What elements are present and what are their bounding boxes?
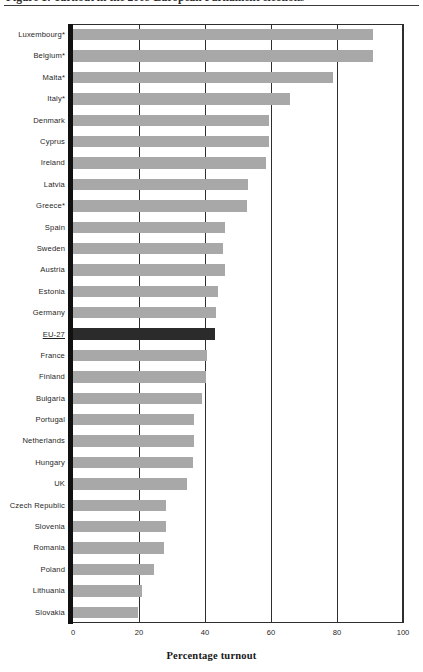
bar [73,115,269,126]
category-label: Lithuania [33,580,65,601]
bar [73,179,248,190]
bar [73,29,373,40]
category-label: Malta* [43,67,65,88]
bar-row: Germany [0,302,423,323]
bar-row: Austria [0,259,423,280]
category-label: Greece* [36,195,65,216]
bar-row: Luxembourg* [0,24,423,45]
bar [73,457,193,468]
category-label: Sweden [37,238,65,259]
bar [73,222,225,233]
category-label: Netherlands [22,430,65,451]
category-label: Latvia [44,174,65,195]
bar [73,328,215,340]
category-label: Poland [40,559,65,580]
bar [73,542,164,553]
x-tick-100: 100 [383,628,423,637]
category-label: Slovenia [35,516,65,537]
bar-row: Slovakia [0,602,423,623]
category-label: Finland [39,366,65,387]
bar-row: Romania [0,537,423,558]
bar-chart: Luxembourg*Belgium*Malta*Italy*DenmarkCy… [0,0,423,672]
bar-row: Malta* [0,67,423,88]
bar [73,500,166,511]
category-label: Romania [34,537,65,558]
category-label: EU-27 [43,324,65,345]
bar-row: France [0,345,423,366]
bar [73,585,142,596]
bar-row: Sweden [0,238,423,259]
bar [73,307,216,318]
bar-row: UK [0,473,423,494]
bar-row: Spain [0,217,423,238]
bar-row: Belgium* [0,45,423,66]
category-label: Slovakia [35,602,65,623]
x-tick-20: 20 [119,628,159,637]
bar [73,435,194,446]
bar [73,157,266,168]
bar-rows: Luxembourg*Belgium*Malta*Italy*DenmarkCy… [0,24,423,623]
bar-row: Denmark [0,110,423,131]
bar [73,136,269,147]
bar [73,286,218,297]
bar [73,393,202,404]
category-label: Cyprus [40,131,65,152]
category-label: Austria [40,259,65,280]
bar-row: Finland [0,366,423,387]
bar [73,200,247,211]
bar-row: Cyprus [0,131,423,152]
x-tick-40: 40 [185,628,225,637]
category-label: Czech Republic [10,495,65,516]
bar-row: Bulgaria [0,388,423,409]
bar [73,564,154,575]
bar-row: Lithuania [0,580,423,601]
category-label: Italy* [47,88,65,109]
bar [73,371,206,382]
category-label: Denmark [33,110,65,131]
bar-row: Portugal [0,409,423,430]
category-label: Luxembourg* [18,24,65,45]
category-label: Portugal [36,409,65,430]
bar [73,50,373,61]
x-axis-title: Percentage turnout [0,650,423,661]
bar [73,350,207,361]
bar-row: EU-27 [0,324,423,345]
category-label: Spain [45,217,65,238]
bar [73,264,225,275]
bar-row: Netherlands [0,430,423,451]
bar-row: Hungary [0,452,423,473]
category-label: Bulgaria [36,388,65,409]
bar-row: Ireland [0,152,423,173]
x-axis-tick-labels: 020406080100 [0,628,423,642]
category-label: Estonia [39,281,65,302]
bar-row: Latvia [0,174,423,195]
bar-row: Greece* [0,195,423,216]
bar [73,93,290,104]
bar [73,414,194,425]
category-label: Hungary [35,452,65,473]
x-tick-60: 60 [251,628,291,637]
bar [73,243,223,254]
category-label: Germany [33,302,65,323]
category-label: France [40,345,65,366]
bar-row: Estonia [0,281,423,302]
x-tick-80: 80 [317,628,357,637]
bar-row: Poland [0,559,423,580]
bar [73,72,333,83]
bar [73,478,187,489]
category-label: Ireland [41,152,65,173]
bar [73,607,138,618]
bar [73,521,166,532]
bar-row: Italy* [0,88,423,109]
x-tick-0: 0 [53,628,93,637]
bar-row: Czech Republic [0,495,423,516]
category-label: UK [54,473,65,494]
category-label: Belgium* [33,45,65,66]
bar-row: Slovenia [0,516,423,537]
